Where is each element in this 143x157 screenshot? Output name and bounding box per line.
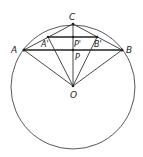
point-o [72,85,75,88]
label-b-prime: B' [94,40,102,49]
point-b [121,49,124,52]
point-p-prime [72,36,74,38]
diagram-canvas: C A B A' P' B' P O [0,0,143,157]
segment-a-prime-o [48,37,73,86]
label-b: B [126,45,132,55]
label-p-prime: P' [74,40,81,49]
label-o: O [70,90,77,100]
point-c [72,23,75,26]
segment-bo [73,50,122,86]
label-p: P [75,53,80,62]
geometry-diagram: C A B A' P' B' P O [0,0,143,157]
label-a-prime: A' [40,40,49,49]
label-a: A [10,45,17,55]
point-a [23,49,26,52]
label-c: C [69,12,76,22]
segment-ao [24,50,73,86]
point-a-prime [47,36,50,39]
point-p [72,49,74,51]
point-b-prime [96,36,99,39]
